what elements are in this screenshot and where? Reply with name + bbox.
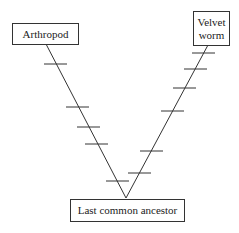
last-common-ancestor-label: Last common ancestor	[78, 204, 178, 217]
velvet-worm-label-line1: Velvet	[197, 16, 225, 29]
last-common-ancestor-node: Last common ancestor	[70, 199, 185, 222]
branch-velvet-worm	[126, 45, 208, 198]
arthropod-node: Arthropod	[12, 23, 79, 45]
velvet-worm-label-line2: worm	[199, 29, 225, 42]
velvet-worm-node: Velvet worm	[193, 11, 230, 46]
arthropod-label: Arthropod	[23, 28, 69, 41]
branch-arthropod	[46, 44, 126, 198]
